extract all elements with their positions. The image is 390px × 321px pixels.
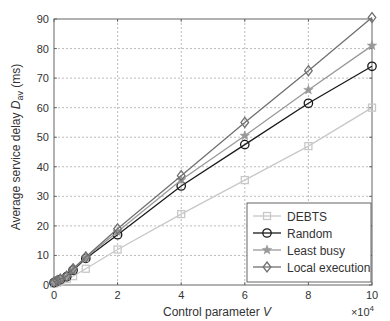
legend-label: Least busy — [287, 244, 345, 258]
x-tick-label: 10 — [366, 289, 378, 301]
y-tick-label: 50 — [37, 131, 49, 143]
x-tick-label: 2 — [115, 289, 121, 301]
x-tick-label: 4 — [178, 289, 184, 301]
legend: DEBTSRandomLeast busyLocal execution — [247, 203, 371, 282]
legend-label: Local execution — [287, 261, 370, 275]
x-multiplier: ×104 — [351, 304, 375, 318]
y-tick-label: 60 — [37, 102, 49, 114]
x-axis-label: Control parameter V — [163, 305, 272, 319]
y-tick-label: 90 — [37, 13, 49, 25]
x-tick-label: 6 — [242, 289, 248, 301]
x-tick-label: 0 — [51, 289, 57, 301]
legend-label: DEBTS — [287, 210, 327, 224]
y-tick-label: 70 — [37, 72, 49, 84]
line-chart: 02468100102030405060708090 DEBTSRandomLe… — [0, 0, 390, 321]
y-tick-label: 40 — [37, 161, 49, 173]
y-tick-label: 30 — [37, 190, 49, 202]
legend-label: Random — [287, 227, 332, 241]
x-tick-label: 8 — [305, 289, 311, 301]
y-tick-label: 10 — [37, 249, 49, 261]
y-axis-label: Average service delay Dav (ms) — [9, 64, 25, 231]
y-tick-label: 0 — [43, 279, 49, 291]
y-tick-label: 20 — [37, 220, 49, 232]
y-tick-label: 80 — [37, 43, 49, 55]
